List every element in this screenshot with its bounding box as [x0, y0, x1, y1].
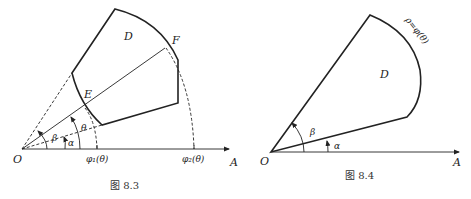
label-beta: β — [309, 127, 315, 137]
label-axis-a: A — [229, 156, 238, 169]
label-origin: O — [13, 153, 22, 166]
angle-alpha-arc — [327, 141, 328, 152]
diagram-svg: O A D E F α β θ φ₁(θ) φ₂(θ) 图 8.3 O A D … — [0, 0, 471, 199]
ray-alpha-dashed — [22, 125, 102, 149]
region-d-boundary — [72, 9, 178, 125]
label-origin: O — [260, 155, 269, 168]
region-d-boundary — [271, 15, 421, 152]
label-theta: θ — [81, 123, 87, 133]
label-alpha: α — [68, 138, 74, 148]
angle-beta-arc — [38, 131, 47, 149]
label-beta: β — [51, 133, 57, 143]
label-axis-a: A — [452, 156, 461, 169]
label-point-f: F — [171, 34, 180, 47]
label-phi2: φ₂(θ) — [182, 154, 205, 164]
label-region-d: D — [123, 30, 133, 43]
angle-alpha-arc — [64, 137, 65, 149]
angle-beta-arc — [292, 123, 304, 152]
label-alpha: α — [334, 141, 340, 151]
figure-8-4: O A D α β ρ=φ(θ) 图 8.4 — [260, 14, 461, 181]
figure-8-3: O A D E F α β θ φ₁(θ) φ₂(θ) 图 8.3 — [13, 9, 238, 191]
label-phi1: φ₁(θ) — [86, 154, 109, 164]
ray-theta — [22, 48, 165, 149]
label-region-d: D — [379, 68, 389, 81]
label-point-e: E — [83, 88, 92, 101]
caption-fig-8-3: 图 8.3 — [110, 180, 139, 191]
phi2-arc-dashed — [166, 48, 194, 149]
caption-fig-8-4: 图 8.4 — [345, 170, 374, 181]
figure-canvas: O A D E F α β θ φ₁(θ) φ₂(θ) 图 8.3 O A D … — [0, 0, 471, 199]
